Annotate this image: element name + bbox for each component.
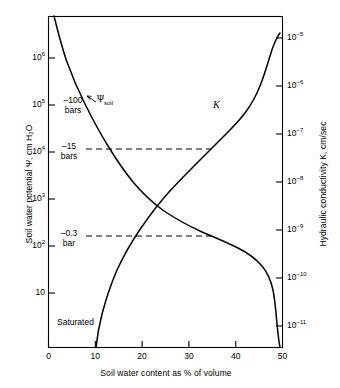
annotation-saturated-label: Saturated [57, 318, 94, 328]
annotation-saturated: Saturated [57, 318, 94, 328]
y-axis-right-title: Hydraulic conductivity K, cm/sec [318, 59, 328, 309]
annotation-minus-100-bars: –100 bars [55, 96, 91, 115]
series-label-k: K [213, 99, 220, 110]
annotation-minus-03-bar: –0.3 bar [52, 229, 86, 248]
tick-exponent: 3 [42, 192, 45, 198]
tick-exponent: −7 [296, 127, 303, 133]
plot-frame [49, 17, 283, 348]
annotation-line-2: bars [52, 152, 86, 162]
tick-exponent: 4 [42, 145, 45, 151]
tick-exponent: 2 [42, 239, 45, 245]
x-tick-label-50: 50 [268, 351, 298, 361]
curve-k [96, 33, 280, 348]
y-right-tick-label-1e-5: 10−5 [287, 32, 327, 42]
x-axis-title: Soil water content as % of volume [48, 368, 284, 378]
tick-exponent: −5 [296, 31, 303, 37]
annotation-line-2: bar [52, 239, 86, 249]
x-tick-marks [49, 341, 283, 348]
annotation-minus-15-bars: –15 bars [52, 142, 86, 161]
x-tick-label-0: 0 [34, 351, 64, 361]
y-right-tick-label-1e-11: 10−11 [287, 320, 327, 330]
soil-water-chart-figure: 0 10 20 30 40 50 106 105 104 103 102 10 … [0, 0, 340, 388]
y-right-tick-marks [276, 38, 283, 326]
y-axis-left-title: Soil water potential Ψ, cm H₂O [24, 59, 34, 309]
x-tick-label-20: 20 [127, 351, 157, 361]
tick-exponent: −10 [296, 271, 306, 277]
curve-psi-soil [54, 16, 280, 348]
psi-subscript: soil [104, 100, 113, 106]
tick-exponent: −9 [296, 223, 303, 229]
x-tick-label-40: 40 [221, 351, 251, 361]
y-left-tick-marks [49, 58, 56, 293]
psi-symbol: Ψ [97, 94, 104, 104]
tick-exponent: −8 [296, 175, 303, 181]
tick-exponent: −11 [296, 319, 306, 325]
series-label-psi-soil: Ψsoil [97, 94, 113, 104]
tick-exponent: −6 [296, 79, 303, 85]
tick-exponent: 5 [42, 98, 45, 104]
annotation-line-2: bars [55, 106, 91, 116]
x-tick-label-10: 10 [80, 351, 110, 361]
tick-mantissa: 10 [36, 287, 45, 297]
x-tick-label-30: 30 [174, 351, 204, 361]
tick-exponent: 6 [42, 51, 45, 57]
